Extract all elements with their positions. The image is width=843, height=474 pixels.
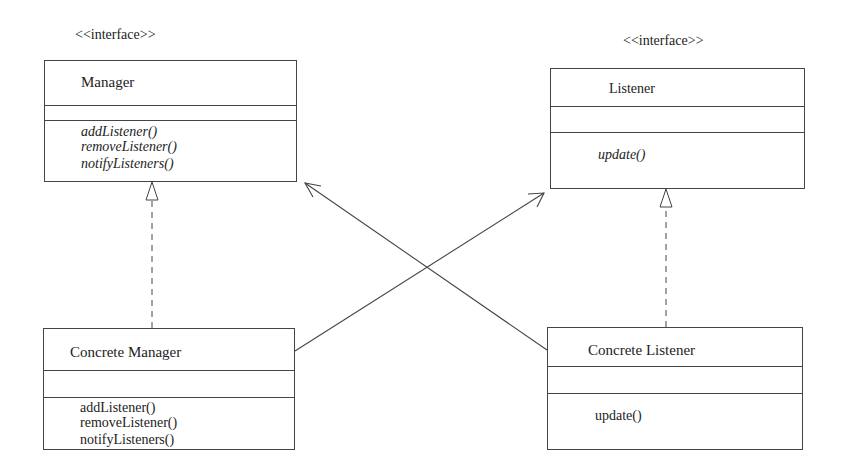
- class-concrete-listener[interactable]: Concrete Listener update(): [547, 327, 803, 450]
- operations-list: addListener() removeListener() notifyLis…: [80, 400, 177, 447]
- uml-class-diagram: <<interface>> Manager addListener() remo…: [0, 0, 843, 474]
- attributes-compartment: [551, 106, 804, 133]
- listener-stereotype: <<interface>>: [623, 33, 704, 49]
- class-name: Listener: [609, 81, 655, 97]
- operations-list: addListener() removeListener() notifyLis…: [81, 124, 177, 171]
- attributes-compartment: [548, 366, 802, 394]
- attributes-compartment: [44, 370, 294, 398]
- realization-concrete-manager-to-manager: [146, 182, 158, 328]
- manager-stereotype: <<interface>>: [75, 27, 156, 43]
- class-concrete-manager[interactable]: Concrete Manager addListener() removeLis…: [43, 328, 295, 450]
- operation: update(): [598, 147, 645, 162]
- operation: removeListener(): [81, 139, 177, 154]
- operation: addListener(): [81, 124, 177, 139]
- operation: removeListener(): [80, 415, 177, 430]
- class-manager[interactable]: Manager addListener() removeListener() n…: [44, 60, 297, 182]
- operations-compartment: addListener() removeListener() notifyLis…: [44, 397, 294, 449]
- association-concrete-listener-to-manager: [305, 183, 547, 350]
- hollow-triangle-icon: [660, 189, 672, 207]
- operations-list: update(): [598, 147, 645, 162]
- class-name: Concrete Manager: [70, 344, 181, 361]
- operations-compartment: update(): [551, 132, 804, 188]
- operations-compartment: addListener() removeListener() notifyLis…: [45, 120, 296, 181]
- hollow-triangle-icon: [146, 182, 158, 200]
- operation: notifyListeners(): [80, 432, 177, 447]
- operations-list: update(): [595, 408, 642, 423]
- realization-concrete-listener-to-listener: [660, 189, 672, 327]
- association-concrete-manager-to-listener: [295, 193, 544, 351]
- class-listener[interactable]: Listener update(): [550, 68, 805, 189]
- operation: notifyListeners(): [81, 156, 177, 171]
- operation: update(): [595, 408, 642, 423]
- class-name: Concrete Listener: [588, 342, 695, 359]
- class-name: Manager: [81, 74, 134, 91]
- operations-compartment: update(): [548, 393, 802, 449]
- attributes-compartment: [45, 105, 296, 121]
- operation: addListener(): [80, 400, 177, 415]
